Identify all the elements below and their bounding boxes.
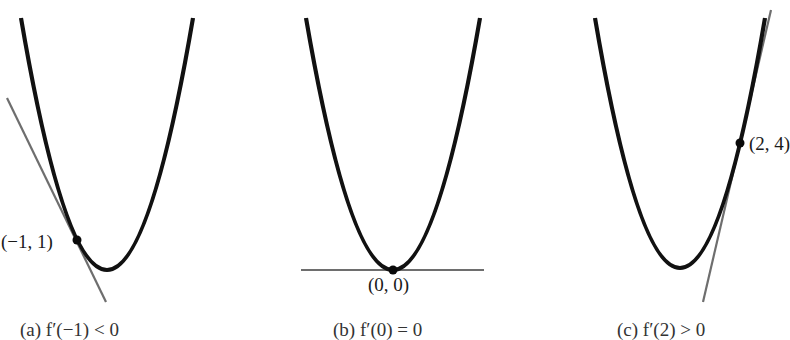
panel-b (301, 18, 484, 275)
point-marker-c (736, 139, 745, 148)
point-label-a: (−1, 1) (1, 232, 53, 251)
caption-b: (b) f′(0) = 0 (333, 320, 422, 339)
panel-a (7, 18, 193, 302)
caption-a: (a) f′(−1) < 0 (20, 320, 119, 339)
parabola-b (306, 18, 480, 270)
point-label-b: (0, 0) (368, 275, 409, 294)
panel-c (595, 10, 771, 302)
point-label-c: (2, 4) (749, 134, 790, 153)
tangent-line-a (7, 98, 106, 302)
point-marker-a (73, 236, 82, 245)
caption-c: (c) f′(2) > 0 (617, 320, 705, 339)
